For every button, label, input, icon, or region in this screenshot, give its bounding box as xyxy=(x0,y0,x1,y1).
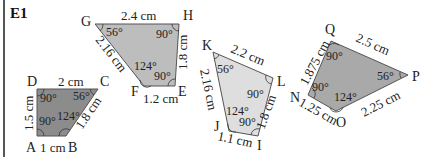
vertex-c: C xyxy=(100,74,109,89)
vertex-g: G xyxy=(81,14,91,29)
vertex-i: I xyxy=(257,138,262,153)
angle-b: 124° xyxy=(57,109,80,123)
angle-p: 56° xyxy=(377,69,394,83)
quadrilateral-nopq: Q P O N 2.5 cm 2.25 cm 1.25 cm 1.875 cm … xyxy=(290,22,420,130)
vertex-a: A xyxy=(26,140,37,155)
quadrilateral-abcd: D C A B 2 cm 1 cm 1.5 cm 1.8 cm 90° 56° … xyxy=(21,74,109,155)
side-dc: 2 cm xyxy=(58,74,84,89)
angle-k: 56° xyxy=(217,62,234,76)
vertex-f: F xyxy=(131,84,139,99)
vertex-q: Q xyxy=(325,22,335,37)
angle-o: 124° xyxy=(334,90,357,104)
angle-a: 90° xyxy=(39,114,56,128)
side-gh: 2.4 cm xyxy=(121,8,156,23)
angle-l: 90° xyxy=(247,87,264,101)
side-ab: 1 cm xyxy=(40,140,66,155)
vertex-p: P xyxy=(412,69,420,84)
angle-i: 90° xyxy=(239,115,256,129)
quadrilaterals-diagram: D C A B 2 cm 1 cm 1.5 cm 1.8 cm 90° 56° … xyxy=(0,0,423,157)
angle-e: 90° xyxy=(154,69,171,83)
angle-g: 56° xyxy=(106,25,123,39)
vertex-b: B xyxy=(68,140,77,155)
side-ad: 1.5 cm xyxy=(21,96,36,131)
angle-c: 56° xyxy=(73,89,90,103)
quadrilateral-ijkl: K L J I 2.2 cm 2.16 cm 1.8 cm 1.1 cm 56°… xyxy=(197,38,285,153)
vertex-d: D xyxy=(27,74,37,89)
vertex-l: L xyxy=(277,74,286,89)
vertex-k: K xyxy=(202,38,212,53)
angle-d: 90° xyxy=(40,91,57,105)
quadrilateral-efgh: G H F E 2.4 cm 1.2 cm 2.16 cm 1.8 cm 56°… xyxy=(81,8,193,106)
angle-n: 90° xyxy=(312,80,329,94)
vertex-h: H xyxy=(183,8,193,23)
vertex-e: E xyxy=(178,84,187,99)
side-fe: 1.2 cm xyxy=(143,91,178,106)
side-he: 1.8 cm xyxy=(175,35,190,70)
angle-h: 90° xyxy=(156,27,173,41)
figure-frame: E1 D C A B 2 cm 1 cm 1.5 cm 1.8 cm 90° 5… xyxy=(0,0,423,157)
angle-q: 90° xyxy=(326,49,343,63)
